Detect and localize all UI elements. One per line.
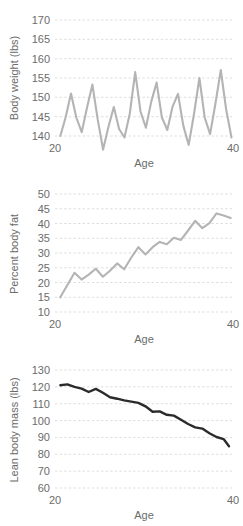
y-tick-120: 120 <box>32 381 50 393</box>
y-tick-140: 140 <box>32 130 50 142</box>
x-tick-labels-body-weight: 20 40 <box>49 142 239 154</box>
x-tick-20: 20 <box>49 318 61 330</box>
gridlines-body-weight <box>55 20 233 136</box>
y-tick-130: 130 <box>32 364 50 376</box>
y-tick-30: 30 <box>38 247 50 259</box>
y-axis-title-body-weight: Body weight (lbs) <box>8 36 20 120</box>
y-tick-170: 170 <box>32 14 50 26</box>
x-axis-title-lean-body-mass: Age <box>134 509 154 521</box>
y-tick-155: 155 <box>32 72 50 84</box>
y-tick-labels-body-weight: 170 165 160 155 150 145 140 <box>32 14 50 142</box>
y-tick-50: 50 <box>38 188 50 200</box>
y-tick-45: 45 <box>38 203 50 215</box>
y-tick-160: 160 <box>32 53 50 65</box>
x-tick-40: 40 <box>227 142 239 154</box>
y-tick-165: 165 <box>32 33 50 45</box>
y-axis-title-lean-body-mass: Lean body mass (lbs) <box>8 377 20 482</box>
chart-panel-body-weight: 170 165 160 155 150 145 140 Body weight … <box>0 0 243 176</box>
chart-panel-lean-body-mass: 130 120 110 100 90 80 70 60 Lean body ma… <box>0 352 243 526</box>
body-weight-line-chart: 170 165 160 155 150 145 140 Body weight … <box>0 0 243 176</box>
y-tick-labels-lean-body-mass: 130 120 110 100 90 80 70 60 <box>32 364 50 494</box>
series-lean-body-mass <box>60 384 229 446</box>
y-axis-title-percent-body-fat: Percent body fat <box>8 214 20 294</box>
y-tick-145: 145 <box>32 111 50 123</box>
x-tick-40: 40 <box>227 494 239 506</box>
y-tick-110: 110 <box>32 398 50 410</box>
y-tick-80: 80 <box>38 448 50 460</box>
y-tick-35: 35 <box>38 232 50 244</box>
x-tick-40: 40 <box>227 318 239 330</box>
y-tick-25: 25 <box>38 262 50 274</box>
y-tick-70: 70 <box>38 465 50 477</box>
lean-body-mass-line-chart: 130 120 110 100 90 80 70 60 Lean body ma… <box>0 352 243 526</box>
chart-panel-percent-body-fat: 50 45 40 35 30 25 20 15 10 Percent body … <box>0 176 243 352</box>
series-body-weight <box>60 70 231 150</box>
series-percent-body-fat <box>60 213 230 297</box>
y-tick-150: 150 <box>32 91 50 103</box>
y-tick-labels-percent-body-fat: 50 45 40 35 30 25 20 15 10 <box>38 188 50 318</box>
y-tick-10: 10 <box>38 306 50 318</box>
x-axis-title-body-weight: Age <box>134 157 154 169</box>
y-tick-15: 15 <box>38 291 50 303</box>
y-tick-20: 20 <box>38 277 50 289</box>
y-tick-60: 60 <box>38 482 50 494</box>
x-tick-labels-lean-body-mass: 20 40 <box>49 494 239 506</box>
y-tick-90: 90 <box>38 431 50 443</box>
x-axis-title-percent-body-fat: Age <box>134 333 154 345</box>
y-tick-100: 100 <box>32 415 50 427</box>
x-tick-20: 20 <box>49 142 61 154</box>
y-tick-40: 40 <box>38 218 50 230</box>
x-tick-20: 20 <box>49 494 61 506</box>
percent-body-fat-line-chart: 50 45 40 35 30 25 20 15 10 Percent body … <box>0 176 243 352</box>
x-tick-labels-percent-body-fat: 20 40 <box>49 318 239 330</box>
figure-container: 170 165 160 155 150 145 140 Body weight … <box>0 0 243 526</box>
